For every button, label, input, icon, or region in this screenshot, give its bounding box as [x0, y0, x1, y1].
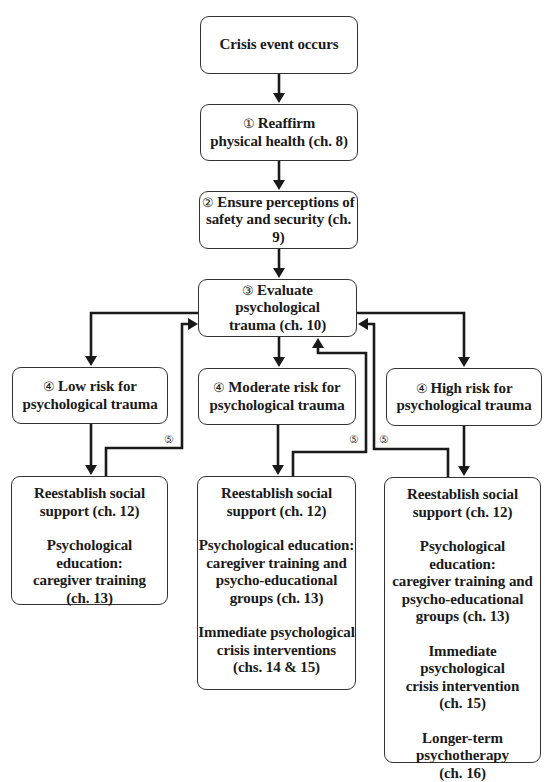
step-number-4-icon: ④	[213, 380, 225, 395]
node-label: High risk for	[430, 380, 512, 396]
action-line: (ch. 15)	[385, 695, 540, 713]
action-longer-term-psychotherapy: Longer-term psychotherapy (ch. 16)	[416, 730, 509, 782]
node-label: Crisis event occurs	[220, 36, 339, 54]
node-label: physical health (ch. 8)	[210, 133, 348, 151]
action-line: support (ch. 12)	[221, 503, 332, 521]
feedback-5-icon: ⑤	[164, 433, 174, 445]
action-line: psycho-educational	[199, 572, 355, 590]
action-line: groups (ch. 13)	[199, 590, 355, 608]
action-line: (ch. 16)	[416, 765, 509, 782]
action-line: caregiver training and	[199, 555, 355, 573]
node-ensure-safety: ②Ensure perceptions of safety and securi…	[199, 191, 358, 249]
action-line: support (ch. 12)	[34, 503, 145, 521]
actions-moderate-risk: Reestablish social support (ch. 12) Psyc…	[197, 476, 356, 690]
action-crisis-intervention: Immediate psychological crisis intervent…	[385, 643, 540, 713]
action-line: psychotherapy	[416, 747, 509, 765]
node-label: psychological trauma	[396, 397, 531, 415]
action-line: (ch. 13)	[12, 590, 167, 608]
node-low-risk: ④Low risk for psychological trauma	[12, 367, 168, 424]
action-line: Psychological education:	[199, 537, 355, 555]
action-line: Psychological education:	[385, 538, 540, 573]
action-line: (chs. 14 & 15)	[198, 659, 354, 677]
actions-low-risk: Reestablish social support (ch. 12) Psyc…	[11, 476, 168, 605]
action-line: Reestablish social	[221, 485, 332, 503]
action-reestablish-support: Reestablish social support (ch. 12)	[221, 485, 332, 520]
node-moderate-risk: ④Moderate risk for psychological trauma	[198, 368, 356, 425]
action-reestablish-support: Reestablish social support (ch. 12)	[34, 485, 145, 520]
action-line: crisis interventions	[198, 642, 354, 660]
node-reaffirm-health: ①Reaffirm physical health (ch. 8)	[200, 104, 358, 161]
action-psych-education: Psychological education: caregiver train…	[199, 537, 355, 607]
node-label: psychological trauma	[22, 396, 157, 414]
action-line: caregiver training and	[385, 573, 540, 591]
step-number-2-icon: ②	[202, 195, 214, 210]
action-line: Reestablish social	[407, 486, 518, 504]
feedback-5-icon: ⑤	[379, 433, 389, 445]
action-line: crisis intervention	[385, 678, 540, 696]
action-crisis-intervention: Immediate psychological crisis intervent…	[198, 624, 354, 677]
action-line: Immediate psychological	[385, 643, 540, 678]
node-label: Ensure perceptions of	[217, 194, 354, 210]
node-label: Reaffirm	[258, 115, 316, 131]
action-reestablish-support: Reestablish social support (ch. 12)	[407, 486, 518, 521]
node-label: trauma (ch. 10)	[229, 317, 326, 335]
node-label: Low risk for	[58, 378, 137, 394]
action-line: Reestablish social	[34, 485, 145, 503]
node-label: Moderate risk for	[228, 379, 340, 395]
feedback-5-icon: ⑤	[349, 433, 359, 445]
action-line: psycho-educational	[385, 591, 540, 609]
step-number-3-icon: ③	[242, 283, 254, 298]
action-psych-education: Psychological education: caregiver train…	[12, 537, 167, 607]
action-line: support (ch. 12)	[407, 504, 518, 522]
node-crisis-event: Crisis event occurs	[200, 16, 358, 74]
action-line: Immediate psychological	[198, 624, 354, 642]
action-line: Longer-term	[416, 730, 509, 748]
node-high-risk: ④High risk for psychological trauma	[386, 368, 542, 426]
actions-high-risk: Reestablish social support (ch. 12) Psyc…	[384, 477, 541, 763]
action-line: caregiver training	[12, 572, 167, 590]
action-line: groups (ch. 13)	[385, 608, 540, 626]
node-evaluate-trauma: ③Evaluate psychological trauma (ch. 10)	[198, 279, 357, 337]
step-number-4-icon: ④	[416, 381, 428, 396]
step-number-4-icon: ④	[43, 379, 55, 394]
node-label: safety and security (ch. 9)	[200, 211, 357, 246]
action-line: Psychological education:	[12, 537, 167, 572]
node-label: psychological trauma	[209, 397, 344, 415]
step-number-1-icon: ①	[243, 116, 255, 131]
action-psych-education: Psychological education: caregiver train…	[385, 538, 540, 626]
